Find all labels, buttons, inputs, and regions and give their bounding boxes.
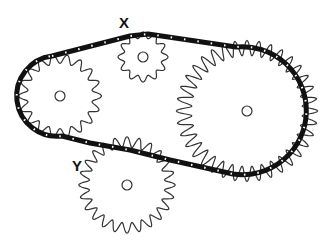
hub-icon [122, 180, 132, 190]
label-y: Y [72, 157, 82, 174]
hub-icon [55, 91, 65, 101]
hub-icon [138, 52, 148, 62]
label-x: X [119, 14, 129, 31]
hub-icon [242, 106, 252, 116]
large-sprocket [176, 40, 317, 181]
gears-group [19, 32, 318, 233]
chain-drive-diagram [0, 0, 333, 242]
